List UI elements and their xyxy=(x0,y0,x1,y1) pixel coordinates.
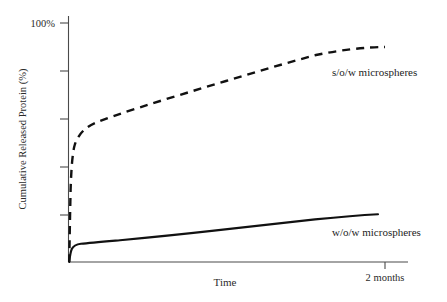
chart-background xyxy=(0,0,447,302)
y-axis-title: Cumulative Released Protein (%) xyxy=(17,68,29,209)
y-tick-label-100: 100% xyxy=(31,18,56,29)
x-tick-label-2-months: 2 months xyxy=(366,272,405,283)
series-label-sow-microspheres: s/o/w microspheres xyxy=(332,66,417,78)
chart-figure: 100% 2 months Time Cumulative Released P… xyxy=(0,0,447,302)
series-label-wow-microspheres: w/o/w microspheres xyxy=(332,226,421,238)
x-axis-title: Time xyxy=(214,276,237,288)
